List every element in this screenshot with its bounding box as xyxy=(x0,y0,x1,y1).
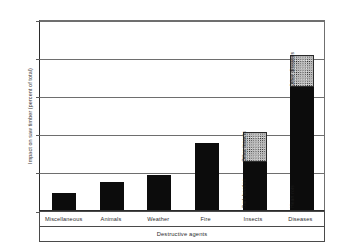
segment-label-secondary: Other diseases xyxy=(289,52,295,87)
y-tick-mark xyxy=(36,97,40,98)
y-axis-title: Impact on saw timber (percent of total) xyxy=(27,26,33,206)
bar-segment-primary xyxy=(100,182,124,210)
category-label-miscellaneous: Miscellaneous xyxy=(40,212,87,226)
gridline xyxy=(40,173,324,174)
segment-label-primary: Heart rots xyxy=(289,185,295,208)
x-axis-title: Destructive agents xyxy=(157,231,208,237)
bar-segment-primary xyxy=(195,143,219,210)
category-label-diseases: Diseases xyxy=(277,212,324,226)
bar-segment-primary xyxy=(52,193,76,210)
bar-segment-primary xyxy=(147,175,171,210)
segment-label-primary: Bark beetles xyxy=(241,179,247,208)
y-tick-mark xyxy=(36,173,40,174)
segment-label-secondary: Other insects xyxy=(241,131,247,162)
bar xyxy=(100,182,124,210)
gridline xyxy=(40,21,324,22)
category-label-insects: Insects xyxy=(229,212,276,226)
bar xyxy=(147,175,171,210)
bar xyxy=(52,193,76,210)
bar xyxy=(195,143,219,210)
gridline xyxy=(40,135,324,136)
category-label-fire: Fire xyxy=(182,212,229,226)
x-axis-title-box: Destructive agents xyxy=(39,227,325,242)
gridline xyxy=(40,59,324,60)
category-label-strip: MiscellaneousAnimalsWeatherFireInsectsDi… xyxy=(39,211,325,227)
y-tick-mark xyxy=(36,21,40,22)
y-tick-mark xyxy=(36,135,40,136)
plot-area: 50403020100Bark beetlesOther insectsHear… xyxy=(39,20,325,211)
gridline xyxy=(40,97,324,98)
category-label-weather: Weather xyxy=(135,212,182,226)
chart-figure: Impact on saw timber (percent of total) … xyxy=(0,0,342,250)
y-tick-mark xyxy=(36,59,40,60)
category-label-animals: Animals xyxy=(87,212,134,226)
